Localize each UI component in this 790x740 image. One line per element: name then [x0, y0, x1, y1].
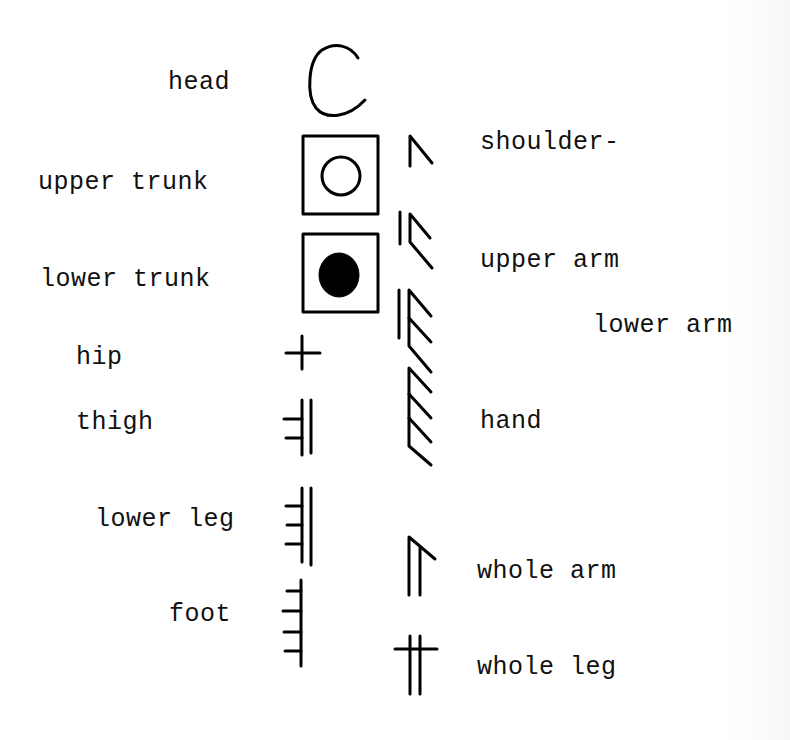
shoulder-caret-icon — [410, 136, 432, 166]
symbols-canvas — [0, 0, 790, 740]
upper-trunk-open-circle-box-icon — [303, 136, 378, 214]
head-c-icon — [310, 46, 365, 116]
lower-leg-double-line-three-ticks-icon — [286, 488, 311, 565]
lower-trunk-filled-circle-box-icon — [303, 234, 378, 312]
lower-arm-three-chevrons-icon — [399, 290, 431, 372]
symbol-key-diagram: head upper trunk lower trunk hip thigh l… — [0, 0, 790, 740]
whole-leg-double-line-cross-icon — [395, 636, 437, 694]
whole-arm-double-line-caret-icon — [409, 537, 435, 595]
hip-cross-icon — [286, 336, 320, 369]
upper-arm-two-chevrons-icon — [400, 212, 432, 268]
hand-four-chevrons-icon — [409, 368, 431, 465]
foot-single-line-four-ticks-icon — [283, 580, 301, 666]
thigh-double-line-two-ticks-icon — [284, 400, 311, 455]
